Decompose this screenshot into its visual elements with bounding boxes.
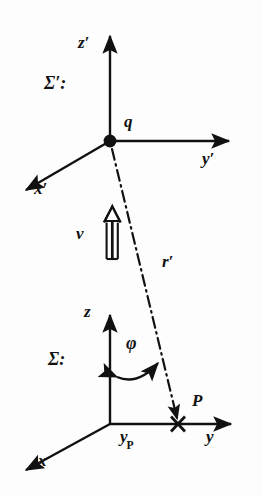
- label-y-p-coordinate: yP: [120, 428, 135, 449]
- label-charge-q: q: [124, 113, 133, 130]
- physics-diagram: Σ′: z′ y′ x′ q v r′ Σ: z φ y x P yP: [0, 0, 262, 496]
- y-p-subscript: P: [127, 439, 134, 452]
- label-sigma: Σ:: [48, 350, 65, 368]
- label-sigma-prime: Σ′:: [44, 74, 66, 92]
- label-y-axis: y: [206, 428, 214, 445]
- label-x-prime-axis: x′: [34, 180, 47, 197]
- velocity-arrow-icon: [104, 206, 120, 259]
- charge-dot-icon: [104, 135, 117, 148]
- label-z-prime-axis: z′: [78, 34, 89, 51]
- diagram-canvas: [0, 0, 262, 496]
- label-z-axis: z: [84, 303, 91, 320]
- label-velocity-v: v: [76, 225, 84, 242]
- label-point-p: P: [192, 392, 202, 409]
- phi-angle-arc: [117, 363, 158, 380]
- label-phi-angle: φ: [126, 334, 137, 352]
- label-x-axis: x: [38, 452, 47, 469]
- label-y-prime-axis: y′: [202, 150, 214, 167]
- label-r-prime: r′: [162, 253, 173, 270]
